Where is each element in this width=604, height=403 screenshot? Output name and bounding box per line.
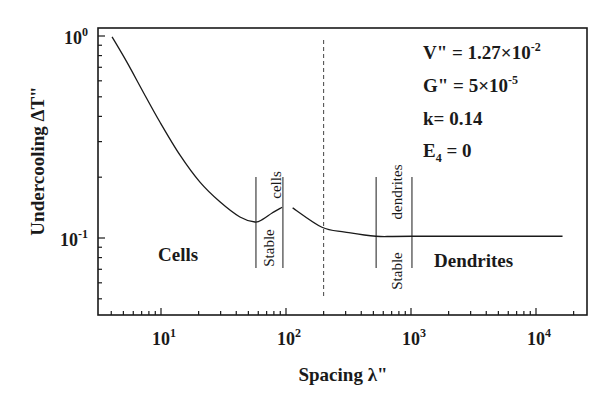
curves [112,37,562,237]
param-v: V" = 1.27×10-2 [423,40,541,63]
stable-dendrites-label-stable: Stable [389,252,405,290]
param-k: k= 0.14 [423,108,483,129]
x-tick-label: 103 [402,326,426,349]
y-axis-tick-labels: 10010-1 [60,25,88,250]
stable-dendrites-label-dendrites: dendrites [389,164,405,219]
dendrites-region-label: Dendrites [434,250,513,271]
param-e4: E4 = 0 [423,140,472,165]
param-g: G" = 5×10-5 [423,73,518,96]
x-tick-label: 104 [527,326,551,349]
x-axis-title: Spacing λ" [298,364,387,385]
y-tick-label: 100 [64,25,88,48]
stable-cells-label-stable: Stable [261,229,277,267]
plot-frame [98,28,587,315]
cellular-curve [112,37,282,222]
stable-cells-label-cells: cells [268,171,284,199]
chart: 101102103104 10010-1 Spacing λ" Undercoo… [0,0,604,403]
cells-region-label: Cells [158,244,198,265]
y-axis-title: Undercooling ΔT" [27,86,48,235]
parameter-block: V" = 1.27×10-2 G" = 5×10-5 k= 0.14 E4 = … [423,40,541,165]
y-axis-ticks [98,36,105,299]
dendritic-curve [293,208,563,237]
y-tick-label: 10-1 [60,227,88,250]
x-axis-tick-labels: 101102103104 [152,326,551,349]
x-tick-label: 102 [277,326,301,349]
x-tick-label: 101 [152,326,176,349]
x-axis-ticks [111,308,573,315]
